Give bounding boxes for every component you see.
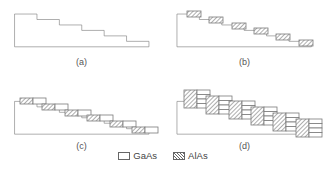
alas-swatch-icon [173,152,185,160]
gaas-swatch-icon [118,152,130,160]
panel-label-a: (a) [0,57,163,67]
figure-root: (a) (b) (c) (d) GaAs AlAs [0,0,326,173]
panel-a [15,14,149,47]
panel-d [177,90,322,137]
legend-label-alas: AlAs [188,150,208,161]
panel-label-b: (b) [163,57,326,67]
panel-c [15,98,158,134]
panel-a-outline [15,14,149,47]
panel-b-outline [177,14,311,47]
panel-c-outline [15,101,149,134]
legend-entry-alas: AlAs [173,150,208,161]
legend-entry-gaas: GaAs [118,150,157,161]
legend: GaAs AlAs [0,150,326,161]
legend-label-gaas: GaAs [133,150,157,161]
panel-b [177,11,313,47]
